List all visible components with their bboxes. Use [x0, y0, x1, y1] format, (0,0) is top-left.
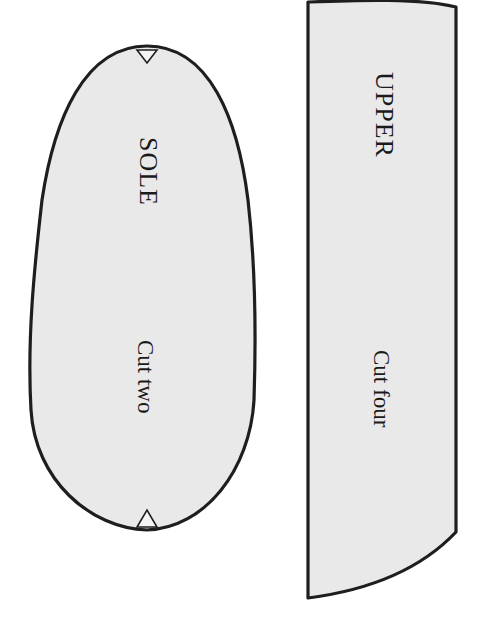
upper-instruction: Cut four [370, 350, 393, 427]
sole-piece [30, 46, 255, 530]
sole-outline [30, 46, 255, 530]
pattern-drawing [0, 0, 477, 619]
sole-instruction: Cut two [134, 340, 157, 413]
upper-title: UPPER [371, 72, 397, 158]
sole-title: SOLE [135, 137, 161, 206]
pattern-sheet: SOLE Cut two UPPER Cut four [0, 0, 477, 619]
